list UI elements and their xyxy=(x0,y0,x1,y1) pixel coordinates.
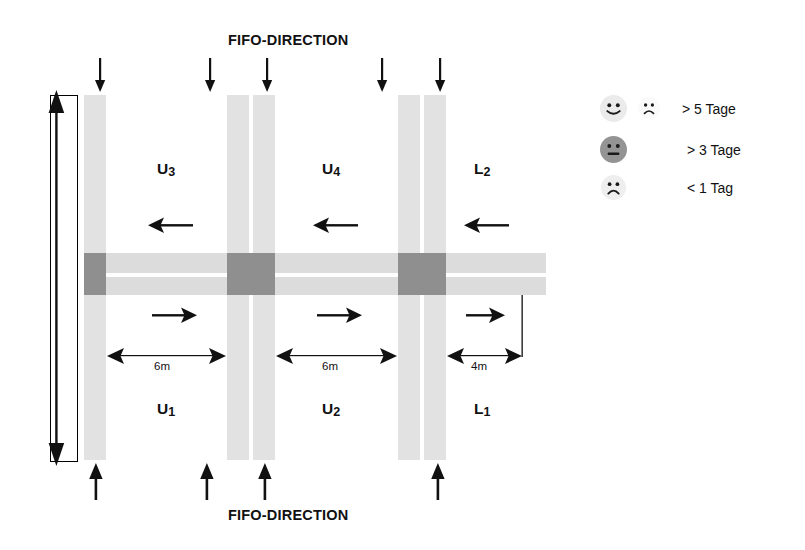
legend-row-gt3-tage: > 3 Tage xyxy=(600,136,741,163)
legend-row-lt1-tag: < 1 Tag xyxy=(601,175,733,200)
legend-label-lt1-tag: < 1 Tag xyxy=(687,180,733,196)
legend: > 5 Tage > 3 Tage < 1 Tag xyxy=(600,95,800,215)
fifo-arrow-up-icon xyxy=(200,463,213,500)
smiley-happy-glyph xyxy=(600,95,627,122)
fifo-arrow-up-icon xyxy=(89,463,102,500)
smiley-sad-glyph xyxy=(601,175,626,200)
smiley-sad-icon xyxy=(601,175,626,200)
fifo-arrow-up-icon xyxy=(431,463,444,500)
smiley-neutral-icon xyxy=(600,136,627,163)
smiley-sad-glyph xyxy=(638,97,660,119)
smiley-happy-icon xyxy=(600,95,627,122)
bottom-arrows-svg xyxy=(0,0,560,520)
smiley-sad-icon xyxy=(638,97,660,119)
fifo-direction-title-bottom: FIFO-DIRECTION xyxy=(228,507,348,523)
fifo-arrow-up-icon xyxy=(258,463,271,500)
bottom-arrow-group xyxy=(0,0,560,520)
smiley-neutral-glyph xyxy=(600,136,627,163)
legend-row-gt5-tage: > 5 Tage xyxy=(600,95,736,122)
warehouse-fifo-diagram: FIFO-DIRECTION xyxy=(0,0,805,550)
legend-label-gt3-tage: > 3 Tage xyxy=(687,142,741,158)
legend-label-gt5-tage: > 5 Tage xyxy=(682,101,736,117)
